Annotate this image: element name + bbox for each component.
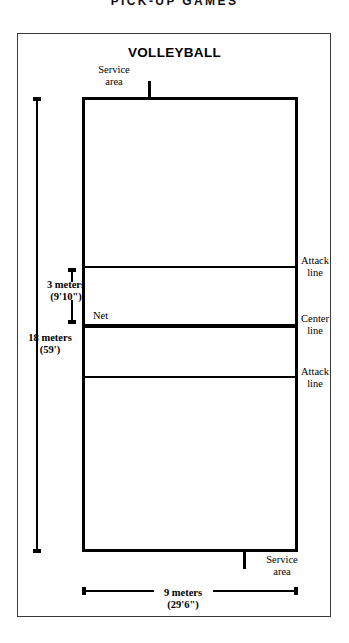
- label-service-area-bottom-line2: area: [254, 566, 310, 578]
- label-service-area-bottom: Service area: [254, 554, 310, 577]
- dimension-cap-right: [294, 587, 298, 595]
- label-attack-line-top: Attack line: [301, 255, 329, 278]
- label-service-area-top: Service area: [86, 64, 142, 87]
- dimension-label-attack-metric: 3 meters: [40, 279, 92, 291]
- dimension-cap-bottom: [68, 320, 76, 324]
- attack-line-top: [82, 266, 298, 268]
- center-line-net: [82, 324, 298, 328]
- dimension-cap-top: [33, 97, 41, 101]
- label-net: Net: [93, 310, 108, 322]
- service-area-tick-top: [148, 81, 151, 98]
- dimension-label-attack-distance: 3 meters (9'10"): [40, 279, 92, 302]
- dimension-arrow-court-width-left: [82, 590, 154, 592]
- dimension-label-court-width: 9 meters (29'6"): [155, 587, 211, 610]
- label-attack-line-bottom-line1: Attack: [301, 366, 329, 378]
- label-attack-line-bottom-line2: line: [301, 378, 329, 390]
- dimension-label-length-metric: 18 meters: [19, 332, 81, 344]
- dimension-label-width-imperial: (29'6"): [155, 599, 211, 611]
- label-service-area-bottom-line1: Service: [254, 554, 310, 566]
- dimension-cap-left: [82, 587, 86, 595]
- label-attack-line-bottom: Attack line: [301, 366, 329, 389]
- label-center-line-line2: line: [301, 325, 329, 337]
- dimension-arrow-court-width-right: [213, 590, 298, 592]
- dimension-arrow-court-length: [36, 97, 38, 553]
- dimension-label-court-length: 18 meters (59'): [19, 332, 81, 355]
- dimension-label-width-metric: 9 meters: [155, 587, 211, 599]
- dimension-cap-top: [68, 268, 76, 272]
- figure-title: VOLLEYBALL: [0, 45, 349, 60]
- label-attack-line-top-line2: line: [301, 267, 329, 279]
- dimension-label-attack-imperial: (9'10"): [40, 291, 92, 303]
- dimension-arrow-attack-lower: [71, 300, 73, 324]
- page-heading: PICK-UP GAMES: [0, 0, 349, 8]
- service-area-tick-bottom: [243, 551, 246, 569]
- label-service-area-top-line1: Service: [86, 64, 142, 76]
- label-center-line-line1: Center: [301, 313, 329, 325]
- label-attack-line-top-line1: Attack: [301, 255, 329, 267]
- attack-line-bottom: [82, 376, 298, 378]
- dimension-cap-bottom: [33, 549, 41, 553]
- dimension-label-length-imperial: (59'): [19, 344, 81, 356]
- label-center-line: Center line: [301, 313, 329, 336]
- label-service-area-top-line2: area: [86, 76, 142, 88]
